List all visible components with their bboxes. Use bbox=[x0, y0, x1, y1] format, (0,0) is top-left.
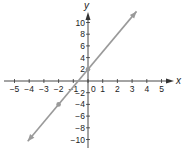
svg-text:10: 10 bbox=[76, 18, 86, 28]
svg-text:6: 6 bbox=[80, 41, 85, 51]
svg-text:−6: −6 bbox=[75, 111, 85, 121]
svg-text:−4: −4 bbox=[24, 84, 34, 94]
svg-text:−8: −8 bbox=[75, 123, 85, 133]
svg-text:4: 4 bbox=[80, 53, 85, 63]
svg-text:−10: −10 bbox=[71, 135, 86, 145]
svg-text:8: 8 bbox=[80, 29, 85, 39]
x-axis-label: x bbox=[175, 75, 182, 86]
svg-text:1: 1 bbox=[100, 84, 105, 94]
coordinate-plane: −5−4−3−2−1012345108642−2−4−6−8−10 x y bbox=[0, 0, 187, 154]
svg-text:−3: −3 bbox=[39, 84, 49, 94]
svg-text:4: 4 bbox=[144, 84, 149, 94]
y-axis-label: y bbox=[83, 0, 90, 11]
svg-text:3: 3 bbox=[130, 84, 135, 94]
svg-text:−4: −4 bbox=[75, 99, 85, 109]
svg-text:−2: −2 bbox=[54, 84, 64, 94]
svg-text:5: 5 bbox=[159, 84, 164, 94]
svg-text:0: 0 bbox=[91, 84, 96, 94]
svg-text:−2: −2 bbox=[75, 88, 85, 98]
svg-text:2: 2 bbox=[115, 84, 120, 94]
svg-text:−5: −5 bbox=[10, 84, 20, 94]
